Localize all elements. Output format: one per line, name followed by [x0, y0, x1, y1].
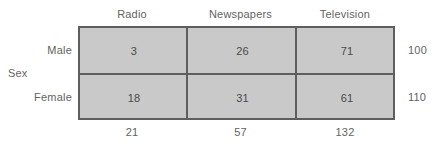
- column-header-radio: Radio: [78, 8, 186, 20]
- column-total-television: 132: [295, 126, 395, 138]
- row-header-male: Male: [10, 44, 72, 56]
- table-cell-male-radio: 3: [80, 28, 188, 75]
- column-total-newspapers: 57: [186, 126, 295, 138]
- column-header-television: Television: [295, 8, 395, 20]
- row-total-female: 110: [408, 91, 426, 103]
- row-header-female: Female: [10, 91, 72, 103]
- row-total-male: 100: [408, 44, 427, 56]
- contingency-table-grid: 3 26 71 18 31 61: [78, 26, 395, 120]
- row-variable-label: Sex: [8, 67, 52, 79]
- table-cell-female-newspapers: 31: [188, 75, 297, 122]
- table-cell-female-television: 61: [297, 75, 397, 122]
- table-cell-male-newspapers: 26: [188, 28, 297, 75]
- table-cell-female-radio: 18: [80, 75, 188, 122]
- table-cell-male-television: 71: [297, 28, 397, 75]
- column-total-radio: 21: [78, 126, 186, 138]
- column-header-newspapers: Newspapers: [186, 8, 295, 20]
- grid-horizontal-rule: [80, 73, 393, 75]
